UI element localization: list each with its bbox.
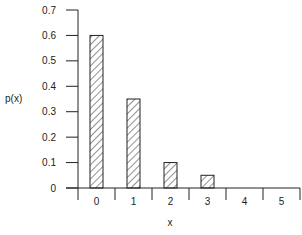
x-tick-label: 4 <box>242 196 248 207</box>
bar-x-0 <box>90 35 103 188</box>
y-tick-label: 0.3 <box>42 106 56 117</box>
bar-x-1 <box>127 99 140 188</box>
bar-x-2 <box>164 163 177 188</box>
y-tick-label: 0.6 <box>42 30 56 41</box>
probability-bar-chart: 00.10.20.30.40.50.60.7 012345 p(x) x <box>0 0 302 235</box>
y-tick-label: 0.4 <box>42 81 56 92</box>
y-tick-label: 0 <box>50 183 56 194</box>
y-axis-label: p(x) <box>5 93 22 104</box>
x-tick-label: 1 <box>131 196 137 207</box>
y-tick-label: 0.2 <box>42 132 56 143</box>
x-tick-label: 3 <box>205 196 211 207</box>
x-tick-label: 5 <box>279 196 285 207</box>
y-tick-label: 0.5 <box>42 55 56 66</box>
bar-x-3 <box>201 175 214 188</box>
bars <box>90 35 214 188</box>
y-axis: 00.10.20.30.40.50.60.7 <box>42 5 78 194</box>
x-axis-label: x <box>168 217 173 228</box>
x-axis: 012345 <box>66 188 300 207</box>
y-tick-label: 0.7 <box>42 5 56 16</box>
x-tick-label: 2 <box>168 196 174 207</box>
y-tick-label: 0.1 <box>42 157 56 168</box>
x-tick-label: 0 <box>94 196 100 207</box>
